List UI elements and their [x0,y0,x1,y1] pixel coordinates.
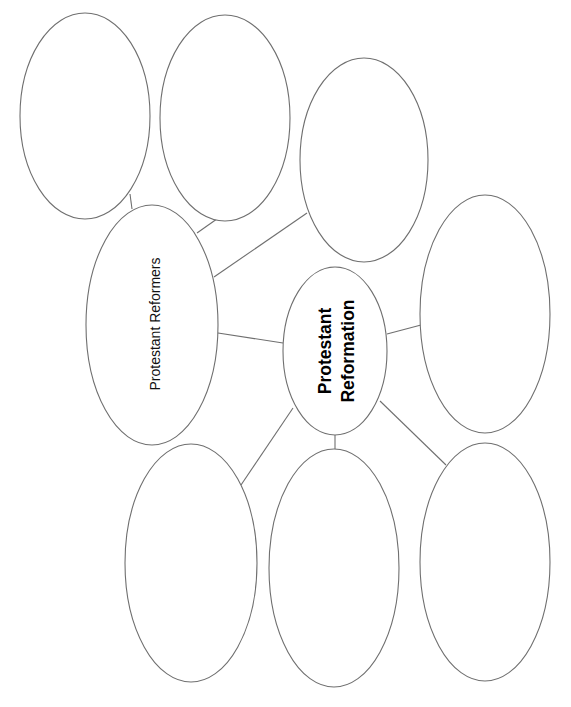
reformers-label: Protestant Reformers [147,257,163,390]
bubble-detail-bottom-left[interactable] [125,444,257,682]
connector-center-right [387,325,421,334]
connector-reformers-center [218,333,283,343]
bubble-map-canvas: Protestant Reformers Protestant Reformat… [0,0,571,707]
center-node[interactable]: Protestant Reformation [283,267,387,435]
center-label-line1: Protestant [315,308,335,395]
bubble-reformer-2[interactable] [160,15,290,221]
connector-reformer-3 [214,213,307,277]
connector-center-bottom-left [241,408,293,485]
center-label-line2: Reformation [338,299,358,402]
reformers-node[interactable]: Protestant Reformers [86,205,218,445]
bubble-detail-bottom-right[interactable] [420,443,550,681]
bubble-reformer-1[interactable] [20,13,150,219]
bubble-center[interactable] [283,267,387,435]
bubble-detail-right[interactable] [420,195,550,433]
bubble-detail-bottom-center[interactable] [269,449,399,687]
bubble-reformer-3[interactable] [300,58,428,262]
connector-center-bottom-right [380,401,446,465]
connector-reformer-1 [130,194,132,209]
